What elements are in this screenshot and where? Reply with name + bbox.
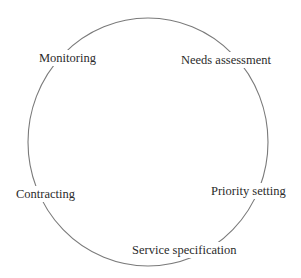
stage-contracting: Contracting [16,187,76,201]
stage-service-specification: Service specification [132,243,237,257]
commissioning-cycle-diagram: Needs assessment Priority setting Servic… [0,0,301,278]
stage-priority-setting: Priority setting [211,184,286,198]
stage-monitoring: Monitoring [39,51,97,65]
stage-needs-assessment: Needs assessment [181,53,271,67]
